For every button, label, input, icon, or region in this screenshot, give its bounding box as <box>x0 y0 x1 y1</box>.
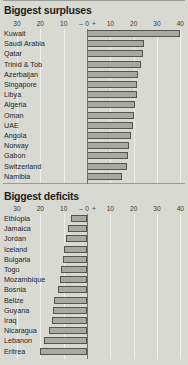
zero-baseline <box>87 214 88 359</box>
bar-row: Singapore <box>0 80 188 90</box>
axis-deficits: 302010010203040–+ <box>0 203 188 214</box>
bar-row: Oman <box>0 111 188 121</box>
bar <box>87 61 141 68</box>
axis-tick-label: 0 <box>85 203 89 214</box>
axis-tick-label: 20 <box>37 203 44 214</box>
zero-baseline <box>87 29 88 184</box>
bar <box>44 337 87 344</box>
bar-row: Guyana <box>0 306 188 316</box>
bar-category-label: Bosnia <box>4 285 26 295</box>
bar <box>40 348 87 355</box>
bar <box>87 40 144 47</box>
axis-tick-label: 20 <box>130 203 137 214</box>
bar <box>87 122 133 129</box>
bar <box>53 307 87 314</box>
bar <box>87 91 137 98</box>
bar <box>49 327 88 334</box>
bar-row: Iraq <box>0 316 188 326</box>
chart-panel-deficits: Biggest deficits 302010010203040–+ Ethio… <box>0 183 188 365</box>
bar-row: Jordan <box>0 234 188 244</box>
bar-row: Mozambique <box>0 275 188 285</box>
bar <box>87 142 129 149</box>
panel-top-rule <box>3 183 185 184</box>
bar-category-label: Singapore <box>4 80 37 90</box>
bar-row: Namibia <box>0 172 188 182</box>
bar-category-label: Belize <box>4 296 24 306</box>
axis-positive-sign: + <box>92 18 96 29</box>
axis-tick-label: 30 <box>153 203 160 214</box>
bar <box>68 225 87 232</box>
bar-row: Eritrea <box>0 347 188 357</box>
axis-positive-sign: + <box>92 203 96 214</box>
bar-category-label: Nicaragua <box>4 326 37 336</box>
bar <box>87 101 135 108</box>
axis-negative-sign: – <box>79 203 83 214</box>
axis-tick-label: 40 <box>177 18 184 29</box>
axis-tick-label: 10 <box>60 18 67 29</box>
panel-title-surpluses: Biggest surpluses <box>4 4 92 16</box>
bar-row: Iceland <box>0 245 188 255</box>
bar-category-label: Angola <box>4 131 26 141</box>
bar <box>60 276 87 283</box>
bar-row: Libya <box>0 90 188 100</box>
plot-area-surpluses: KuwaitSaudi ArabiaQatarTrinid & TobAzerb… <box>0 29 188 184</box>
axis-tick-label: 30 <box>13 18 20 29</box>
bar-row: Togo <box>0 265 188 275</box>
bar <box>61 266 87 273</box>
bar-row: Qatar <box>0 49 188 59</box>
panel-top-rule <box>3 0 185 1</box>
bar-category-label: Qatar <box>4 49 22 59</box>
bar-category-label: Iraq <box>4 316 16 326</box>
bar <box>87 152 128 159</box>
bar-category-label: Switzerland <box>4 162 41 172</box>
axis-tick-label: 20 <box>130 18 137 29</box>
bar-row: UAE <box>0 121 188 131</box>
bar <box>87 163 127 170</box>
bar-row: Ethiopia <box>0 214 188 224</box>
axis-tick-label: 10 <box>60 203 67 214</box>
bar <box>58 286 87 293</box>
bar <box>87 112 134 119</box>
bar-row: Kuwait <box>0 29 188 39</box>
bar-row: Algeria <box>0 100 188 110</box>
axis-tick-label: 30 <box>13 203 20 214</box>
bar-category-label: Azerbaijan <box>4 70 38 80</box>
bar <box>87 132 131 139</box>
bar-category-label: Libya <box>4 90 21 100</box>
bar <box>54 297 87 304</box>
bar-row: Jamaica <box>0 224 188 234</box>
bar <box>87 71 138 78</box>
axis-tick-label: 10 <box>107 203 114 214</box>
bar-category-label: UAE <box>4 121 19 131</box>
bar <box>52 317 87 324</box>
bar-category-label: Ethiopia <box>4 214 30 224</box>
bar-category-label: Bulgaria <box>4 255 30 265</box>
bar-category-label: Iceland <box>4 245 27 255</box>
axis-tick-label: 20 <box>37 18 44 29</box>
axis-tick-label: 10 <box>107 18 114 29</box>
panel-title-deficits: Biggest deficits <box>4 190 79 202</box>
bar-row: Lebanon <box>0 336 188 346</box>
bar-row: Angola <box>0 131 188 141</box>
bar-row: Switzerland <box>0 162 188 172</box>
bar-category-label: Eritrea <box>4 347 25 357</box>
bar-row: Bulgaria <box>0 255 188 265</box>
bar-category-label: Gabon <box>4 151 26 161</box>
bar-category-label: Togo <box>4 265 20 275</box>
bar <box>87 81 137 88</box>
plot-area-deficits: EthiopiaJamaicaJordanIcelandBulgariaTogo… <box>0 214 188 359</box>
bar-row: Bosnia <box>0 285 188 295</box>
bar <box>63 256 88 263</box>
axis-tick-label: 0 <box>85 18 89 29</box>
bar <box>87 50 143 57</box>
axis-surpluses: 302010010203040–+ <box>0 18 188 29</box>
bar-category-label: Guyana <box>4 306 29 316</box>
bar <box>87 30 180 37</box>
bar-row: Nicaragua <box>0 326 188 336</box>
bar-category-label: Kuwait <box>4 29 26 39</box>
bar-category-label: Mozambique <box>4 275 45 285</box>
bar-category-label: Algeria <box>4 100 26 110</box>
bar-category-label: Lebanon <box>4 336 32 346</box>
bar-category-label: Namibia <box>4 172 30 182</box>
bar <box>66 235 87 242</box>
